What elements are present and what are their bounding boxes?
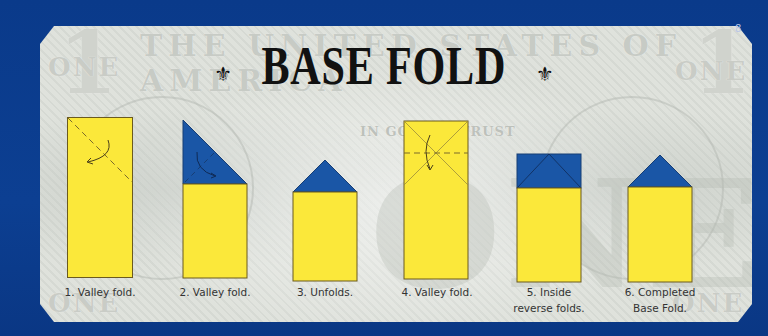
page-title: ⚜ BASE FOLD ⚜ <box>0 34 768 98</box>
step-1-diagram <box>66 116 136 282</box>
ornament-right-icon: ⚜ <box>536 62 554 86</box>
caption-line: 3. Unfolds. <box>270 284 380 300</box>
title-text: BASE FOLD <box>262 34 507 98</box>
page-number: 8 <box>735 23 741 34</box>
step-5-diagram <box>515 152 585 285</box>
caption-line: 2. Valley fold. <box>160 284 270 300</box>
caption-line: 1. Valley fold. <box>45 284 155 300</box>
caption-line: Base Fold. <box>605 300 715 316</box>
step-1-caption: 1. Valley fold. <box>45 284 155 300</box>
step-3-diagram <box>291 158 361 284</box>
step-2-caption: 2. Valley fold. <box>160 284 270 300</box>
caption-line: reverse folds. <box>494 300 604 316</box>
step-4-diagram <box>402 119 472 283</box>
step-4-caption: 4. Valley fold. <box>382 284 492 300</box>
caption-line: 4. Valley fold. <box>382 284 492 300</box>
step-2-diagram <box>181 118 251 282</box>
caption-line: 5. Inside <box>494 284 604 300</box>
step-6-caption: 6. Completed Base Fold. <box>605 284 715 316</box>
step-3-caption: 3. Unfolds. <box>270 284 380 300</box>
step-6-diagram <box>626 153 696 285</box>
step-5-caption: 5. Inside reverse folds. <box>494 284 604 316</box>
caption-line: 6. Completed <box>605 284 715 300</box>
page-background: ONE THE UNITED STATES OF AMERICA 1 1 ONE… <box>0 0 768 336</box>
ornament-left-icon: ⚜ <box>214 62 232 86</box>
